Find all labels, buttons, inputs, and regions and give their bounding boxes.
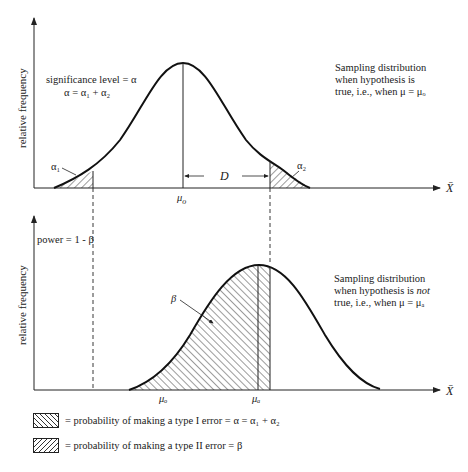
backslash-hatch-swatch — [33, 413, 59, 428]
beta-region — [129, 265, 270, 390]
mu-a-label: μₐ — [252, 393, 260, 405]
legend-type2: = probability of making a type II error … — [33, 438, 242, 453]
bottom-description: Sampling distribution when hypothesis is… — [334, 273, 430, 309]
slash-hatch-swatch — [33, 438, 59, 453]
beta-label: β — [171, 293, 176, 305]
d-label: D — [220, 170, 229, 182]
power-label: power = 1 - β — [37, 234, 94, 246]
mu-o-bottom-label: μₒ — [159, 393, 167, 405]
legend-type1: = probability of making a type I error =… — [33, 413, 280, 428]
top-x-axis-label: X̄ — [446, 182, 453, 194]
alpha-sum-label: α = α₁ + α₂ — [64, 87, 110, 99]
top-description: Sampling distribution when hypothesis is… — [335, 62, 426, 98]
mu-o-label: μo — [177, 192, 186, 208]
alpha1-label: α₁ — [51, 161, 60, 173]
bottom-y-axis-label: relative frequency — [16, 265, 28, 345]
significance-level-label: significance level = α — [46, 74, 136, 86]
bottom-x-axis-label: X̄ — [446, 385, 453, 397]
alpha2-label: α₂ — [297, 160, 306, 172]
top-panel — [34, 18, 440, 188]
top-y-axis-label: relative frequency — [16, 68, 28, 148]
